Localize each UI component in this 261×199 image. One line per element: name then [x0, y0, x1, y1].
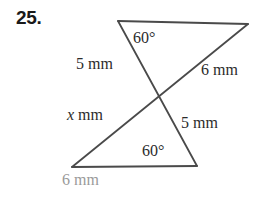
side-label-left-upper: 5 mm	[76, 56, 113, 72]
geometry-diagram	[0, 0, 261, 199]
side-label-right-upper: 6 mm	[201, 62, 238, 78]
angle-label-top: 60°	[133, 30, 155, 46]
bottom-edge-line	[72, 166, 197, 167]
side-label-right-lower: 5 mm	[181, 115, 218, 131]
top-edge-line	[118, 21, 248, 24]
side-label-left-lower-unknown: x mm	[67, 107, 103, 123]
angle-label-bottom: 60°	[142, 143, 164, 159]
unknown-variable-unit: mm	[74, 106, 103, 123]
side-label-base-bottom: 6 mm	[62, 172, 99, 188]
geometry-problem-figure: 25. 60° 5 mm 6 mm x mm 5 mm 60° 6 mm	[0, 0, 261, 199]
